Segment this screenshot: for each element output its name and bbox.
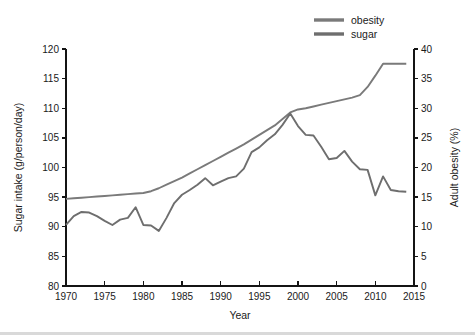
x-tick-label: 2000 xyxy=(287,291,310,302)
x-tick-label: 1970 xyxy=(55,291,78,302)
right-tick-label: 0 xyxy=(421,281,427,292)
plot-axes xyxy=(66,49,414,286)
right-tick-label: 40 xyxy=(421,44,433,55)
x-tick-label: 1980 xyxy=(132,291,155,302)
left-tick-label: 115 xyxy=(43,73,59,84)
left-tick-label: 90 xyxy=(48,221,60,232)
x-axis-title: Year xyxy=(229,309,251,321)
left-tick-label: 105 xyxy=(42,132,59,143)
legend-label-obesity: obesity xyxy=(351,14,385,26)
x-tick-label: 2005 xyxy=(326,291,349,302)
left-tick-label: 120 xyxy=(42,44,59,55)
legend-label-sugar: sugar xyxy=(351,28,378,40)
x-axis-tick-labels: 1970197519801985199019952000200520102015 xyxy=(55,291,426,302)
y-right-axis-title: Adult obesity (%) xyxy=(448,128,460,207)
x-tick-label: 2015 xyxy=(403,291,426,302)
right-tick-label: 10 xyxy=(421,221,433,232)
right-tick-label: 15 xyxy=(421,192,433,203)
series-lines xyxy=(66,64,406,231)
x-tick-label: 1990 xyxy=(210,291,233,302)
x-tick-label: 2010 xyxy=(364,291,387,302)
right-tick-label: 35 xyxy=(421,73,433,84)
x-tick-label: 1975 xyxy=(94,291,117,302)
y-left-axis-title: Sugar intake (g/person/day) xyxy=(12,103,24,233)
left-tick-label: 80 xyxy=(48,281,60,292)
left-axis-tick-labels: 80859095100105110115120 xyxy=(42,44,59,292)
right-tick-label: 30 xyxy=(421,103,433,114)
right-tick-label: 25 xyxy=(421,132,433,143)
line-chart: 80859095100105110115120 0510152025303540… xyxy=(0,0,475,335)
right-axis-tick-labels: 0510152025303540 xyxy=(421,44,433,292)
x-tick-label: 1995 xyxy=(248,291,271,302)
series-line-obesity xyxy=(66,64,406,199)
series-line-sugar xyxy=(66,114,406,231)
left-tick-label: 85 xyxy=(48,251,60,262)
chart-legend: obesitysugar xyxy=(314,14,385,40)
left-tick-label: 100 xyxy=(42,162,59,173)
left-tick-label: 110 xyxy=(43,103,59,114)
right-tick-label: 20 xyxy=(421,162,433,173)
x-tick-label: 1985 xyxy=(171,291,194,302)
figure-container: 80859095100105110115120 0510152025303540… xyxy=(0,0,475,335)
right-tick-label: 5 xyxy=(421,251,427,262)
left-tick-label: 95 xyxy=(48,192,60,203)
